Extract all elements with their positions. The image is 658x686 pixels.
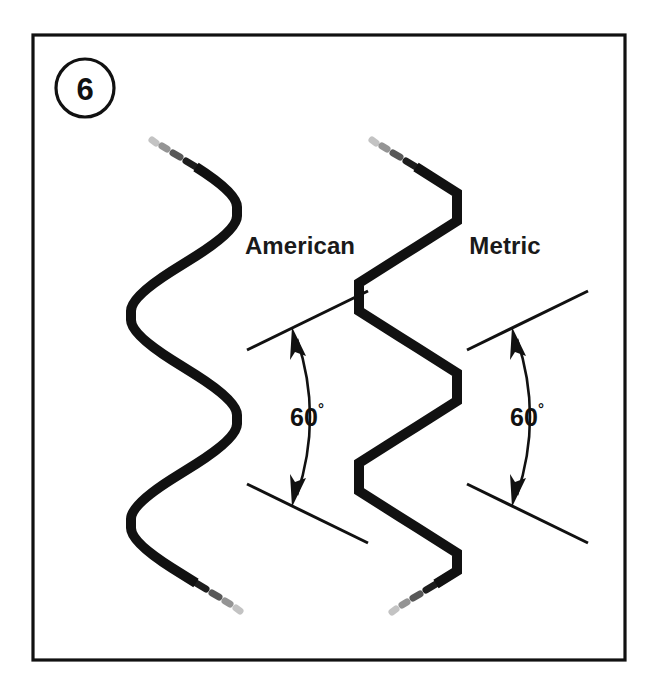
angle-extension-line-upper <box>467 291 588 350</box>
thread-fade-bottom-metric <box>392 584 436 612</box>
angle-extension-line-lower <box>467 484 588 543</box>
profile-label-metric: Metric <box>469 232 540 259</box>
profile-label-american: American <box>245 232 355 259</box>
thread-profile-figure: 6 American <box>0 0 658 686</box>
angle-value-label: 60° <box>510 400 544 431</box>
degree-symbol: ° <box>318 400 324 417</box>
degree-symbol: ° <box>538 400 544 417</box>
thread-fade-bottom-american <box>196 583 240 611</box>
angle-annotation-metric: 60° <box>467 291 588 543</box>
thread-waveform-american <box>131 167 237 583</box>
figure-border <box>33 35 625 660</box>
angle-value-number: 60 <box>290 403 318 431</box>
thread-profile-metric: Metric <box>359 140 541 612</box>
angle-value-label: 60° <box>290 400 324 431</box>
thread-waveform-metric <box>359 167 457 584</box>
angle-extension-line-lower <box>247 484 368 543</box>
angle-arrowhead-upper <box>290 327 306 360</box>
thread-fade-top-metric <box>372 140 416 167</box>
angle-arrowhead-upper <box>510 327 526 360</box>
thread-fade-top-american <box>152 140 196 167</box>
figure-canvas: 6 American <box>0 0 658 686</box>
angle-value-number: 60 <box>510 403 538 431</box>
angle-arrowhead-lower <box>290 474 306 507</box>
angle-arrowhead-lower <box>510 474 526 507</box>
thread-profile-american: American <box>131 140 355 611</box>
angle-extension-line-upper <box>247 291 368 350</box>
angle-annotation-american: 60° <box>247 291 368 543</box>
figure-number-text: 6 <box>76 72 93 107</box>
figure-number-badge: 6 <box>56 59 114 117</box>
